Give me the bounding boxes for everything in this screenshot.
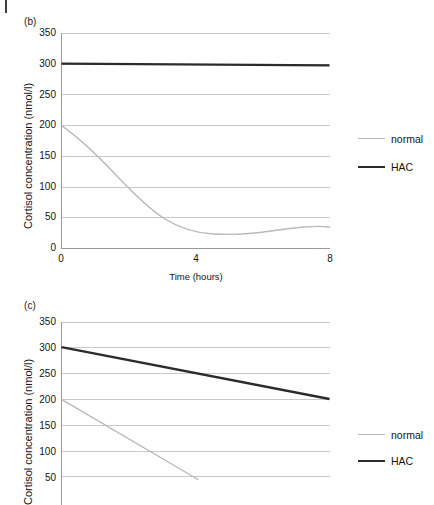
y-tick-c-100: 100 — [30, 447, 56, 457]
legend-label-normal-b: normal — [391, 132, 423, 146]
plot-area-b — [61, 33, 331, 249]
y-tick-b-350: 350 — [30, 28, 56, 38]
y-tick-b-200: 200 — [30, 120, 56, 130]
y-tick-c-50: 50 — [30, 473, 56, 483]
figure-page: (b) Cortisol concentration (nmol/l) 350 … — [0, 0, 434, 505]
y-tick-b-250: 250 — [30, 90, 56, 100]
legend-swatch-hac-b — [358, 166, 385, 168]
chart-panel-c: (c) Cortisol concentration (nmol/l) 350 … — [0, 290, 434, 505]
legend-label-normal-c: normal — [391, 428, 423, 442]
legend-swatch-normal-b — [358, 138, 385, 139]
panel-label-b: (b) — [24, 16, 37, 27]
y-tick-b-300: 300 — [30, 59, 56, 69]
x-axis-label-b: Time (hours) — [136, 271, 256, 282]
plot-area-c — [61, 322, 331, 505]
y-tick-b-100: 100 — [30, 182, 56, 192]
y-tick-b-150: 150 — [30, 151, 56, 161]
y-tick-c-200: 200 — [30, 395, 56, 405]
x-tick-b-4: 4 — [187, 254, 205, 264]
panel-label-c: (c) — [24, 300, 36, 311]
y-tick-c-150: 150 — [30, 421, 56, 431]
y-axis-label-c: Cortisol concentration (nmol/l) — [22, 359, 34, 505]
y-tick-b-0: 0 — [30, 243, 56, 253]
legend-swatch-normal-c — [358, 434, 385, 435]
chart-panel-b: (b) Cortisol concentration (nmol/l) 350 … — [0, 0, 434, 290]
plot-svg-b — [61, 33, 331, 249]
x-tick-b-8: 8 — [321, 254, 339, 264]
series-line-normal-c — [62, 399, 199, 479]
y-tick-c-250: 250 — [30, 369, 56, 379]
y-tick-b-50: 50 — [30, 212, 56, 222]
plot-svg-c — [61, 322, 331, 505]
gridlines-c — [61, 323, 330, 477]
legend-label-hac-b: HAC — [391, 160, 413, 174]
legend-swatch-hac-c — [358, 460, 385, 462]
legend-label-hac-c: HAC — [391, 454, 413, 468]
y-tick-c-300: 300 — [30, 343, 56, 353]
x-tick-b-0: 0 — [52, 254, 70, 264]
y-tick-c-350: 350 — [30, 317, 56, 327]
